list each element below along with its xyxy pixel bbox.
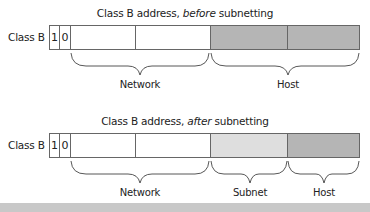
after-braces [0, 0, 370, 212]
after-subnet-label: Subnet [220, 187, 280, 198]
after-network-label: Network [100, 187, 180, 198]
bottom-divider [0, 203, 370, 212]
after-host-label: Host [294, 187, 354, 198]
